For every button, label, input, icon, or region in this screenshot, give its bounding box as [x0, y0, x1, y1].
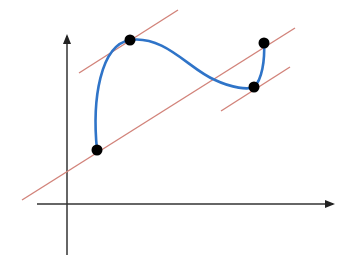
- control-points: [92, 35, 270, 156]
- cubic-curve: [96, 40, 265, 150]
- tangent-lines: [22, 10, 295, 200]
- diagram-canvas: [0, 0, 360, 270]
- peak-point: [125, 35, 136, 46]
- end-point: [259, 38, 270, 49]
- long-tangent-line: [22, 28, 295, 200]
- start-point: [92, 145, 103, 156]
- valley-point: [249, 82, 260, 93]
